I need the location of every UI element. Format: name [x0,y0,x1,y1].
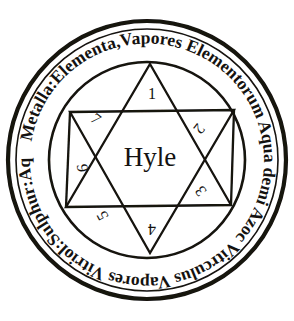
star-numeral-1: 1 [148,85,156,102]
center-label: Hyle [124,142,177,172]
seventh-point-chord [66,112,70,207]
star-numeral-4: 4 [148,221,156,238]
star-numeral-6: 6 [73,163,91,173]
figure-root: Metalla:Elementa,Vapores Elementorum Aqu… [0,0,294,321]
star-numeral-2: 2 [190,121,208,138]
star-numeral-5: 5 [93,208,112,223]
alchemical-sigil: Metalla:Elementa,Vapores Elementorum Aqu… [0,0,294,321]
star-numeral-3: 3 [191,183,209,200]
upper-chord [231,110,234,205]
